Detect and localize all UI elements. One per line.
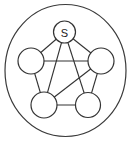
node-circle bbox=[18, 48, 44, 74]
node-circle bbox=[88, 48, 114, 74]
node-right bbox=[88, 48, 114, 74]
node-s: S bbox=[54, 21, 76, 43]
nodes-group: S bbox=[18, 21, 114, 118]
node-circle bbox=[31, 92, 57, 118]
node-label: S bbox=[61, 27, 68, 39]
node-left bbox=[18, 48, 44, 74]
graph-diagram: S bbox=[0, 0, 132, 143]
node-bottom-right bbox=[76, 93, 101, 118]
node-circle bbox=[76, 93, 101, 118]
node-bottom-left bbox=[31, 92, 57, 118]
